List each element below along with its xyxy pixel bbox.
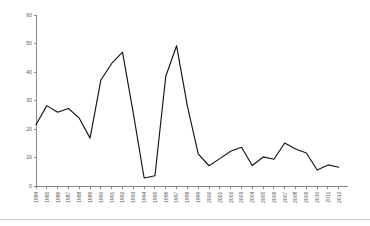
x-tick-label: 1996 [163, 191, 169, 203]
x-tick-label: 2008 [292, 191, 298, 203]
x-tick-labels: 1984198519861987198819891990199119921993… [33, 191, 342, 203]
x-tick-label: 1997 [173, 191, 179, 203]
x-tick-label: 2012 [336, 191, 342, 203]
x-tick-label: 1987 [65, 191, 71, 203]
x-tick-label: 1993 [130, 191, 136, 203]
chart-plot-area: 0102030405060 19841985198619871988198919… [0, 0, 370, 226]
x-tick-label: 1994 [141, 191, 147, 203]
y-tick-label: 50 [26, 40, 32, 46]
x-axis: 1984198519861987198819891990199119921993… [33, 186, 348, 203]
y-tick-label: 0 [29, 183, 32, 189]
x-tick-label: 2002 [228, 191, 234, 203]
y-tick-label: 10 [26, 154, 32, 160]
x-tick-label: 1989 [87, 191, 93, 203]
footer-divider [0, 219, 370, 220]
x-tick-label: 1992 [119, 191, 125, 203]
data-line-series-1 [36, 46, 339, 178]
line-chart-figure: 0102030405060 19841985198619871988198919… [0, 0, 370, 226]
x-tick-label: 1999 [195, 191, 201, 203]
x-tick-label: 2004 [249, 191, 255, 203]
y-tick-label: 20 [26, 126, 32, 132]
x-tick-label: 2000 [206, 191, 212, 203]
x-tick-label: 2007 [282, 191, 288, 203]
x-tick-label: 1991 [109, 191, 115, 203]
y-tick-label: 40 [26, 69, 32, 75]
y-tick-label: 60 [26, 12, 32, 18]
x-tick-label: 1998 [184, 191, 190, 203]
x-tick-label: 1985 [44, 191, 50, 203]
x-tick-label: 1984 [33, 191, 39, 203]
y-tick-labels: 0102030405060 [26, 12, 32, 189]
x-tick-label: 1988 [76, 191, 82, 203]
x-tick-label: 1995 [152, 191, 158, 203]
x-tick-label: 2005 [260, 191, 266, 203]
x-tick-label: 2001 [217, 191, 223, 203]
x-tick-label: 1990 [98, 191, 104, 203]
x-tick-label: 2006 [271, 191, 277, 203]
x-tick-label: 2009 [303, 191, 309, 203]
x-tick-label: 2010 [314, 191, 320, 203]
y-tick-label: 30 [26, 97, 32, 103]
x-tick-label: 1986 [55, 191, 61, 203]
x-tick-label: 2003 [238, 191, 244, 203]
y-axis: 0102030405060 [26, 12, 36, 189]
x-tick-label: 2011 [325, 191, 331, 202]
data-series-group [36, 46, 339, 178]
